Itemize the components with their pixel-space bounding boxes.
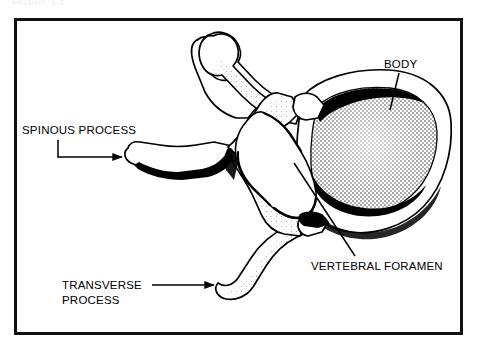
figure-container: FIGURE 1-1 (0, 0, 477, 351)
label-vertebral-foramen: VERTEBRAL FORAMEN (311, 260, 443, 272)
vertebra-diagram: SPINOUS PROCESS BODY VERTEBRAL FORAMEN T… (0, 0, 477, 351)
label-spinous-process: SPINOUS PROCESS (22, 124, 136, 136)
leader-spinous-process (58, 140, 122, 157)
label-body: BODY (384, 58, 418, 70)
label-transverse-process-line1: TRANSVERSE (62, 279, 142, 291)
label-transverse-process-line2: PROCESS (62, 294, 120, 306)
